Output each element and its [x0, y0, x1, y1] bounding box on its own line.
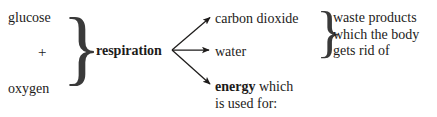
- respiration-diagram: glucose + oxygen } respiration carbon di…: [0, 0, 437, 117]
- arrow-to-carbon-dioxide: [172, 18, 210, 51]
- arrow-to-energy: [172, 50, 210, 84]
- waste-note-line-3: gets rid of: [333, 43, 419, 60]
- energy-term-label: energy: [215, 79, 255, 94]
- energy-note-line-2: is used for:: [215, 96, 293, 113]
- product-carbon-dioxide-label: carbon dioxide: [215, 12, 299, 26]
- waste-note-line-1: waste products: [333, 10, 419, 27]
- waste-products-note: waste products which the body gets rid o…: [333, 10, 419, 60]
- waste-note-line-2: which the body: [333, 27, 419, 44]
- energy-note-line-1: energy which: [215, 79, 293, 96]
- product-water-label: water: [215, 45, 246, 59]
- energy-note: energy which is used for:: [215, 79, 293, 112]
- energy-suffix-label: which: [255, 79, 293, 94]
